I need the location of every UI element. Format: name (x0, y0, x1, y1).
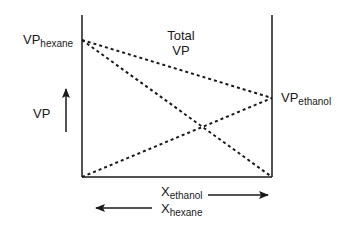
ethanol-vp-line (82, 98, 272, 177)
y-axis-label: VP (33, 107, 50, 120)
y-axis-label-text: VP (33, 106, 50, 121)
x-ethanol-sub: ethanol (170, 190, 203, 201)
vp-hexane-label: VPhexane (23, 33, 73, 49)
total-vp-label: Total VP (162, 29, 200, 57)
vp-ethanol-main: VP (281, 90, 298, 105)
x-ethanol-main: X (161, 184, 170, 199)
vp-hexane-sub: hexane (40, 38, 73, 49)
vp-ethanol-label: VPethanol (281, 91, 331, 107)
x-hexane-main: X (161, 201, 170, 216)
total-vp-line2: VP (162, 44, 200, 57)
vp-ethanol-sub: ethanol (298, 96, 331, 107)
x-ethanol-label: Xethanol (161, 185, 202, 201)
total-vp-line1: Total (162, 29, 200, 42)
hexane-vp-line (82, 40, 272, 177)
vp-hexane-main: VP (23, 32, 40, 47)
x-hexane-sub: hexane (170, 207, 203, 218)
x-hexane-label: Xhexane (161, 202, 202, 218)
